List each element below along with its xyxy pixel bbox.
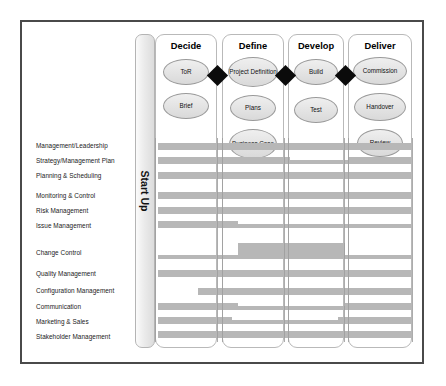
activity-bar-segment: [232, 320, 338, 324]
deliverable-oval[interactable]: Test: [294, 97, 338, 123]
activity-bar-segment: [238, 224, 412, 228]
phase-boundary-line: [217, 138, 218, 342]
activity-bar-segment: [238, 243, 345, 259]
activity-bar-segment: [345, 255, 412, 259]
discipline-label: Monitoring & Control: [36, 192, 95, 199]
activity-bar-segment: [158, 143, 412, 150]
phase-boundary-line: [288, 138, 289, 342]
deliverable-oval[interactable]: Plans: [230, 95, 276, 121]
activity-bar-segment: [158, 221, 238, 228]
phase-title: Define: [223, 41, 283, 51]
activity-bar-segment: [345, 303, 412, 310]
phase-boundary-line: [348, 138, 349, 342]
deliverable-oval[interactable]: Project Definition: [228, 57, 278, 87]
activity-bar-segment: [348, 157, 412, 164]
activity-bar-segment: [158, 157, 290, 164]
deliverable-oval[interactable]: ToR: [163, 59, 209, 85]
phase-column-develop[interactable]: DevelopBuildTest: [288, 34, 344, 348]
phase-boundary-line: [344, 138, 345, 342]
discipline-label: Change Control: [36, 249, 81, 256]
diagram-frame: Management/LeadershipStrategy/Management…: [20, 20, 424, 364]
activity-bar-segment: [238, 306, 345, 310]
activity-bar-segment: [158, 270, 412, 277]
phase-title: Develop: [289, 41, 343, 51]
phase-boundary-line: [412, 138, 413, 342]
discipline-label: Management/Leadership: [36, 142, 108, 149]
discipline-label: Planning & Scheduling: [36, 172, 101, 179]
phase-column-define[interactable]: DefineProject DefinitionPlansBusiness Ca…: [222, 34, 284, 348]
discipline-label: Strategy/Management Plan: [36, 157, 115, 164]
activity-bar-segment: [158, 303, 238, 310]
deliverable-oval[interactable]: Build: [294, 59, 338, 85]
activity-bar-segment: [158, 207, 412, 214]
discipline-label: Communication: [36, 303, 81, 310]
discipline-label: Marketing & Sales: [36, 318, 89, 325]
activity-bar-segment: [158, 317, 232, 324]
phase-boundary-line: [155, 138, 156, 342]
deliverable-oval[interactable]: Brief: [163, 93, 209, 119]
phase-boundary-line: [284, 138, 285, 342]
activity-bar-segment: [158, 255, 238, 259]
deliverable-oval[interactable]: Handover: [354, 93, 406, 121]
phase-column-decide[interactable]: DecideToRBrief: [155, 34, 217, 348]
activity-bar-segment: [290, 160, 348, 164]
discipline-label: Issue Management: [36, 222, 91, 229]
phase-boundary-line: [222, 138, 223, 342]
phase-title: Deliver: [349, 41, 411, 51]
discipline-label: Configuration Management: [36, 287, 114, 294]
activity-bar-segment: [158, 172, 412, 179]
phase-column-deliver[interactable]: DeliverCommissionHandoverReview: [348, 34, 412, 348]
discipline-label: Risk Management: [36, 207, 88, 214]
startup-phase-label: Start Up: [139, 171, 151, 212]
deliverable-oval[interactable]: Commission: [353, 57, 407, 85]
startup-phase-bar[interactable]: Start Up: [135, 34, 155, 348]
discipline-label: Quality Management: [36, 270, 96, 277]
activity-bar-segment: [158, 331, 412, 338]
discipline-label: Stakeholder Management: [36, 333, 110, 340]
activity-bar-segment: [338, 317, 412, 324]
phase-title: Decide: [156, 41, 216, 51]
activity-bar-segment: [198, 288, 412, 295]
activity-bar-segment: [158, 192, 412, 199]
